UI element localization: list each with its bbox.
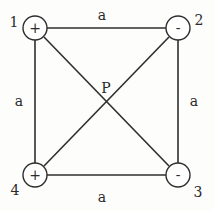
- edge-label-bottom: a: [98, 189, 106, 205]
- charge-sign-plus: +: [29, 167, 41, 183]
- edge-label-right: a: [190, 93, 198, 109]
- node-label: 3: [194, 184, 203, 200]
- charge-node-2: - 2: [166, 12, 203, 40]
- charge-node-4: + 4: [11, 163, 47, 198]
- node-label: 2: [195, 12, 204, 28]
- node-label: 4: [11, 182, 20, 198]
- edge-label-top: a: [98, 7, 106, 23]
- edge-label-left: a: [15, 93, 23, 109]
- diagram-canvas: + 1 - 2 - 3 + 4 a a a a P: [0, 0, 214, 211]
- charge-node-1: + 1: [10, 14, 47, 40]
- node-label: 1: [10, 14, 19, 30]
- center-point-label: P: [101, 80, 110, 96]
- charge-square-diagram: + 1 - 2 - 3 + 4 a a a a P: [0, 0, 214, 211]
- charge-sign-minus: -: [176, 20, 181, 36]
- charge-sign-minus: -: [176, 167, 181, 183]
- charge-sign-plus: +: [29, 20, 41, 36]
- charge-node-3: - 3: [166, 163, 202, 200]
